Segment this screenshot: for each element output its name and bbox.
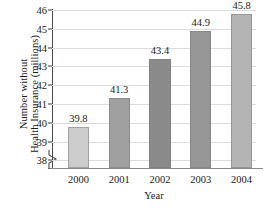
y-axis-tick-label: 39 — [25, 136, 47, 147]
x-axis-tick-label: 2004 — [231, 174, 252, 185]
x-axis-tick-label: 2003 — [190, 174, 211, 185]
bar — [190, 31, 211, 168]
bar-group: 41.3 — [109, 10, 130, 168]
bar-value-label: 45.8 — [232, 0, 250, 11]
y-axis-tick-label: 41 — [25, 99, 47, 110]
bar-value-label: 41.3 — [110, 84, 128, 95]
x-axis-tick-label: 2001 — [109, 174, 130, 185]
x-axis-tick-label: 2000 — [68, 174, 89, 185]
x-axis-line — [48, 168, 263, 169]
bar — [109, 98, 130, 168]
bar — [231, 14, 252, 168]
bar-value-label: 44.9 — [192, 17, 210, 28]
bar-value-label: 39.8 — [69, 113, 87, 124]
plot-area: 464544434241403938 39.841.343.444.945.8 … — [52, 10, 256, 168]
x-axis-tick-label: 2002 — [150, 174, 171, 185]
bar-chart-figure: Number without Health Insurance (million… — [0, 0, 271, 212]
x-axis-title: Year — [52, 190, 256, 201]
y-axis-tick-label: 40 — [25, 117, 47, 128]
y-axis-tick-label: 42 — [25, 80, 47, 91]
bar-value-label: 43.4 — [151, 45, 169, 56]
bar-group: 45.8 — [231, 10, 252, 168]
bar — [149, 59, 170, 168]
y-axis-tick-label: 46 — [25, 5, 47, 16]
bar — [68, 127, 89, 168]
bar-group: 39.8 — [68, 10, 89, 168]
y-axis-title: Number without Health Insurance (million… — [14, 14, 44, 174]
y-axis-tick-label: 45 — [25, 23, 47, 34]
y-axis-tick-label: 44 — [25, 42, 47, 53]
y-axis-tick-label: 43 — [25, 61, 47, 72]
bars-layer: 39.841.343.444.945.8 — [52, 10, 256, 168]
y-axis-tick-label: 38 — [25, 155, 47, 166]
bar-group: 44.9 — [190, 10, 211, 168]
bar-group: 43.4 — [149, 10, 170, 168]
